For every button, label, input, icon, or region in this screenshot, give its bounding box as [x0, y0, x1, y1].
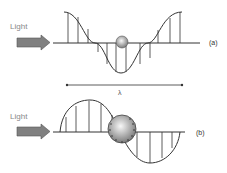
panel-label-a: (a)	[209, 39, 218, 47]
particle-small	[116, 36, 128, 48]
light-arrow-icon	[17, 124, 50, 139]
wavelength-symbol: λ	[118, 89, 122, 96]
panel-a: Light (a)	[10, 12, 218, 73]
panel-label-b: (b)	[196, 129, 205, 137]
light-label-b: Light	[10, 112, 28, 121]
light-label-a: Light	[10, 22, 28, 31]
particle-large	[108, 115, 136, 143]
panel-b: Light (b)	[10, 100, 205, 163]
light-particle-diagram: Light (a) λ	[0, 0, 227, 173]
wavelength-marker: λ	[66, 84, 183, 96]
light-arrow-icon	[17, 35, 50, 50]
